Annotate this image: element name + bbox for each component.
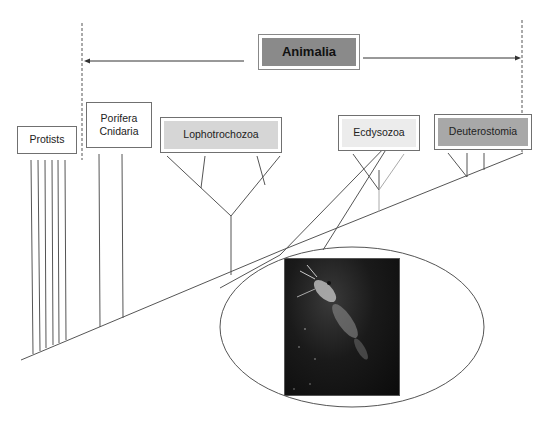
- animalia-box: Animalia: [258, 34, 360, 70]
- ecdysozoa-box: Ecdysozoa: [338, 115, 420, 151]
- lophotrochozoa-label: Lophotrochozoa: [164, 121, 278, 149]
- protists-box: Protists: [17, 126, 77, 154]
- krill-photo: [284, 258, 400, 396]
- porifera-label: Porifera: [101, 112, 138, 125]
- protists-label: Protists: [29, 133, 64, 146]
- deuterostomia-label: Deuterostomia: [438, 118, 528, 146]
- cnidaria-label: Cnidaria: [99, 125, 138, 138]
- lophotrochozoa-box: Lophotrochozoa: [160, 117, 282, 153]
- porifera-cnidaria-box: Porifera Cnidaria: [86, 102, 152, 148]
- animalia-label: Animalia: [262, 38, 356, 66]
- ecdysozoa-label: Ecdysozoa: [342, 119, 416, 147]
- krill-icon: [285, 259, 400, 396]
- deuterostomia-box: Deuterostomia: [434, 114, 532, 150]
